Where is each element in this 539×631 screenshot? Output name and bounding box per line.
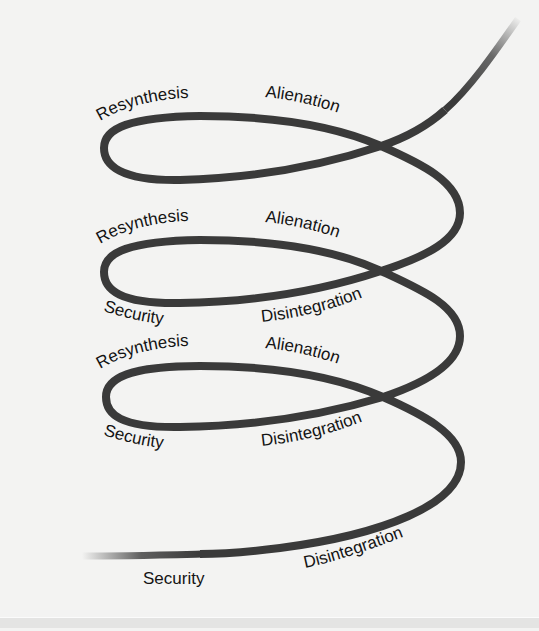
label-disintegration-bottom: Disintegration <box>302 523 406 572</box>
spiral-path <box>104 110 461 554</box>
label-alienation-loop3: Alienation <box>265 333 343 368</box>
spiral-top-tail <box>445 19 518 110</box>
label-security-bottom: Security <box>143 569 205 588</box>
spiral-bottom-tail <box>82 554 202 556</box>
label-alienation-loop2: Alienation <box>265 207 343 242</box>
bottom-edge-band <box>0 617 539 628</box>
label-alienation-loop1: Alienation <box>265 82 343 117</box>
